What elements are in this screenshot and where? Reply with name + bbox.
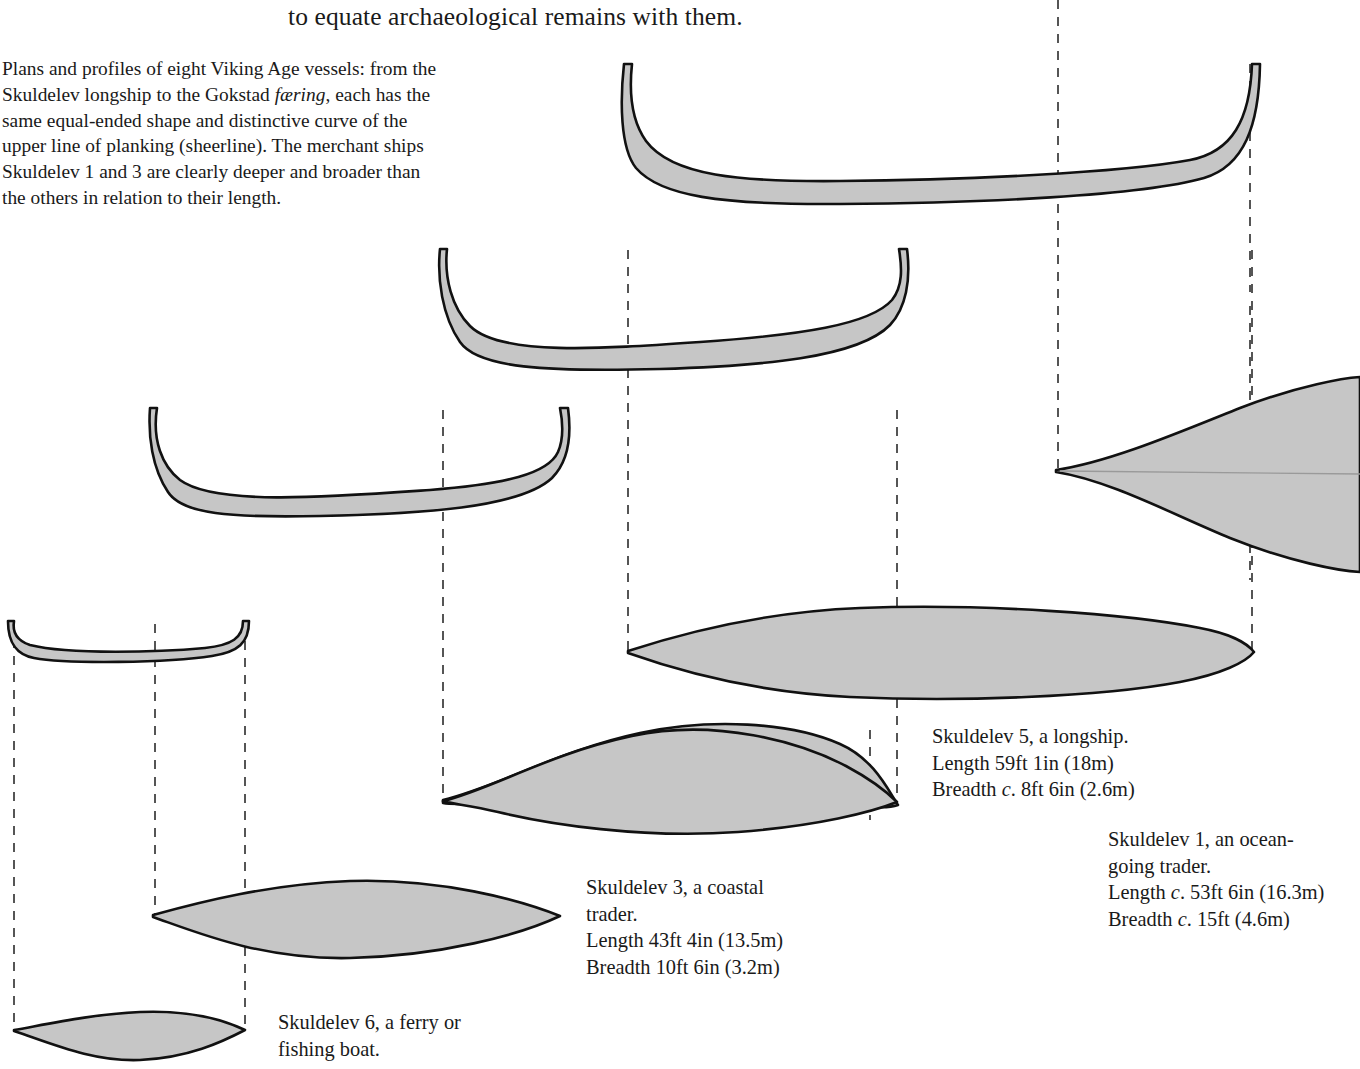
- caption-line-2a: Skuldelev longship to the Gokstad: [2, 84, 275, 105]
- caption-line: upper line of planking (sheerline). The …: [2, 133, 522, 159]
- breadth-value: . 8ft 6in (2.6m): [1011, 778, 1135, 800]
- hull-profile-shape: [439, 249, 908, 370]
- caption-line-4: upper line of planking (sheerline). The …: [2, 135, 424, 156]
- hull-plan-shape: [1056, 377, 1360, 572]
- caption-faering-italic: færing: [275, 84, 326, 105]
- running-head: to equate archaeological remains with th…: [288, 0, 1128, 33]
- caption-line: same equal-ended shape and distinctive c…: [2, 108, 522, 134]
- caption-line: Plans and profiles of eight Viking Age v…: [2, 56, 522, 82]
- vessel-profile-skuldelev1: [622, 64, 1260, 204]
- label-skuldelev-6: Skuldelev 6, a ferry or fishing boat.: [278, 1009, 558, 1062]
- label-skuldelev-6-name-line1: Skuldelev 6, a ferry or: [278, 1009, 558, 1036]
- length-word: Length: [1108, 881, 1171, 903]
- label-skuldelev-3-name-line2: trader.: [586, 901, 866, 928]
- breadth-word: Breadth: [932, 778, 1002, 800]
- caption-line-6: the others in relation to their length.: [2, 187, 281, 208]
- caption-line: Skuldelev longship to the Gokstad færing…: [2, 82, 522, 108]
- vessel-plan-skuldelev1: [1056, 377, 1360, 572]
- caption-line: the others in relation to their length.: [2, 185, 522, 211]
- running-head-text: to equate archaeological remains with th…: [288, 2, 743, 31]
- label-skuldelev-3: Skuldelev 3, a coastal trader. Length 43…: [586, 874, 866, 980]
- caption-line-3: same equal-ended shape and distinctive c…: [2, 110, 407, 131]
- caption-line-5: Skuldelev 1 and 3 are clearly deeper and…: [2, 161, 420, 182]
- vessel-plan-faering: [14, 1012, 245, 1060]
- hull-profile-shape: [622, 64, 1260, 204]
- hull-plan-shape: [14, 1012, 245, 1060]
- label-skuldelev-1-length: Length c. 53ft 6in (16.3m): [1108, 879, 1360, 906]
- hull-plan-shape: [153, 881, 560, 958]
- label-skuldelev-1-breadth: Breadth c. 15ft (4.6m): [1108, 906, 1360, 933]
- vessel-plan-skuldelev5: [628, 607, 1254, 699]
- figure-caption: Plans and profiles of eight Viking Age v…: [2, 56, 522, 211]
- label-skuldelev-1: Skuldelev 1, an ocean- going trader. Len…: [1108, 826, 1360, 932]
- circa-italic: c: [1178, 908, 1187, 930]
- hull-profile-shape: [8, 621, 249, 662]
- label-skuldelev-5-breadth: Breadth c. 8ft 6in (2.6m): [932, 776, 1232, 803]
- breadth-value: . 15ft (4.6m): [1187, 908, 1290, 930]
- vessel-profile-skuldelev6: [8, 621, 249, 662]
- caption-line-1: Plans and profiles of eight Viking Age v…: [2, 58, 436, 79]
- label-skuldelev-5-name: Skuldelev 5, a longship.: [932, 723, 1232, 750]
- label-skuldelev-5-length: Length 59ft 1in (18m): [932, 750, 1232, 777]
- label-skuldelev-1-name-line1: Skuldelev 1, an ocean-: [1108, 826, 1360, 853]
- vessel-plan-skuldelev6: [153, 881, 560, 958]
- label-skuldelev-6-name-line2: fishing boat.: [278, 1036, 558, 1063]
- label-skuldelev-3-name-line1: Skuldelev 3, a coastal: [586, 874, 866, 901]
- length-value: . 53ft 6in (16.3m): [1180, 881, 1324, 903]
- circa-italic: c: [1171, 881, 1180, 903]
- caption-line: Skuldelev 1 and 3 are clearly deeper and…: [2, 159, 522, 185]
- breadth-word: Breadth: [1108, 908, 1178, 930]
- label-skuldelev-1-name-line2: going trader.: [1108, 853, 1360, 880]
- label-skuldelev-5: Skuldelev 5, a longship. Length 59ft 1in…: [932, 723, 1232, 803]
- label-skuldelev-3-breadth: Breadth 10ft 6in (3.2m): [586, 954, 866, 981]
- figure-page: people, and it is a long step, therefore…: [0, 0, 1360, 1069]
- hull-plan-shape: [628, 607, 1254, 699]
- circa-italic: c: [1002, 778, 1011, 800]
- hull-profile-shape: [150, 408, 570, 516]
- vessel-profile-skuldelev5: [439, 249, 908, 370]
- caption-line-2b: , each has the: [325, 84, 430, 105]
- label-skuldelev-3-length: Length 43ft 4in (13.5m): [586, 927, 866, 954]
- vessel-profile-skuldelev3: [150, 408, 570, 516]
